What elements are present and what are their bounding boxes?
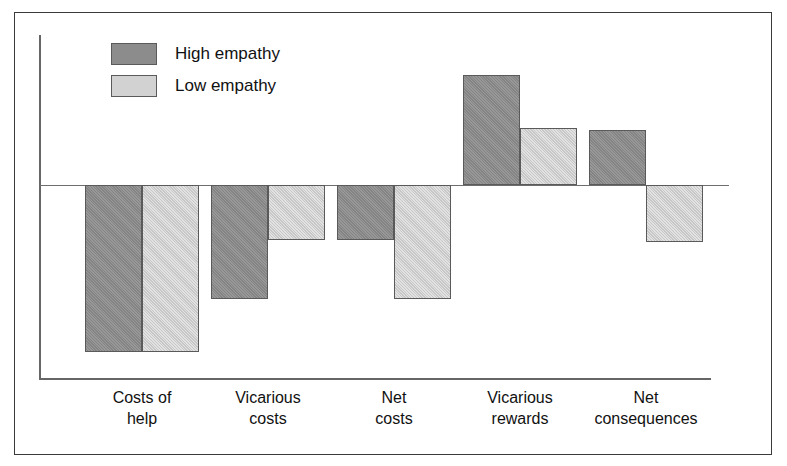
legend-label-high-empathy: High empathy — [175, 44, 280, 64]
bar-net-costs-low-empathy — [394, 185, 451, 299]
x-label-net-consequences: Netconsequences — [573, 387, 719, 429]
bar-vicarious-costs-high-empathy — [211, 185, 268, 299]
x-label-line: rewards — [447, 408, 593, 429]
x-axis-category-labels: Costs ofhelpVicariouscostsNetcostsVicari… — [39, 387, 729, 443]
x-label-line: Costs of — [69, 387, 215, 408]
x-label-costs-of-help: Costs ofhelp — [69, 387, 215, 429]
bar-vicarious-costs-low-empathy — [268, 185, 325, 240]
x-label-line: Net — [321, 387, 467, 408]
bar-costs-of-help-low-empathy — [142, 185, 199, 352]
x-label-line: Vicarious — [195, 387, 341, 408]
x-label-line: help — [69, 408, 215, 429]
chart-figure: High empathy Low empathy Costs ofhelpVic… — [14, 12, 772, 455]
x-label-line: consequences — [573, 408, 719, 429]
bar-net-consequences-high-empathy — [589, 130, 646, 185]
chart-legend: High empathy Low empathy — [111, 43, 280, 107]
x-label-line: Vicarious — [447, 387, 593, 408]
x-label-net-costs: Netcosts — [321, 387, 467, 429]
legend-item-low-empathy: Low empathy — [111, 75, 280, 97]
bar-vicarious-rewards-high-empathy — [463, 75, 520, 185]
x-label-vicarious-costs: Vicariouscosts — [195, 387, 341, 429]
x-label-line: costs — [321, 408, 467, 429]
legend-label-low-empathy: Low empathy — [175, 76, 276, 96]
x-label-vicarious-rewards: Vicariousrewards — [447, 387, 593, 429]
bar-net-costs-high-empathy — [337, 185, 394, 240]
legend-swatch-high-empathy — [111, 43, 157, 65]
bar-costs-of-help-high-empathy — [85, 185, 142, 352]
x-label-line: costs — [195, 408, 341, 429]
bar-net-consequences-low-empathy — [646, 185, 703, 242]
x-label-line: Net — [573, 387, 719, 408]
bar-vicarious-rewards-low-empathy — [520, 128, 577, 185]
legend-item-high-empathy: High empathy — [111, 43, 280, 65]
legend-swatch-low-empathy — [111, 75, 157, 97]
plot-area: High empathy Low empathy Costs ofhelpVic… — [15, 13, 771, 454]
